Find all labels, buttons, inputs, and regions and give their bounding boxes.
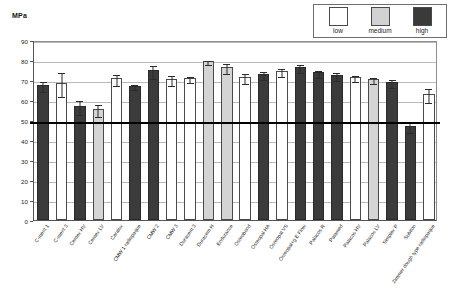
error-bar	[190, 77, 191, 84]
error-bar-cap-bottom	[40, 92, 47, 93]
y-axis-tick-mark	[30, 201, 33, 202]
error-bar-cap-bottom	[187, 83, 194, 84]
bar	[56, 83, 67, 220]
error-bar	[226, 64, 227, 74]
error-bar	[116, 75, 117, 85]
bar	[423, 94, 434, 220]
bar	[405, 126, 416, 220]
error-bar	[98, 105, 99, 117]
error-bar-cap-bottom	[425, 103, 432, 104]
bar-group	[239, 42, 250, 220]
error-bar-cap-top	[95, 105, 102, 106]
x-axis-tick-label: Duracem 3	[178, 223, 197, 247]
y-axis-tick-mark	[30, 221, 33, 222]
bar-group	[203, 42, 214, 220]
error-bar-cap-top	[131, 85, 138, 86]
legend-label-high: high	[402, 27, 442, 35]
error-bar	[245, 74, 246, 83]
y-axis-tick-label: 10	[0, 198, 28, 205]
error-bar-cap-top	[187, 77, 194, 78]
error-bar-cap-bottom	[389, 88, 396, 89]
error-bar-cap-bottom	[297, 73, 304, 74]
bar	[129, 86, 140, 220]
error-bar-cap-top	[297, 65, 304, 66]
error-bar-cap-bottom	[205, 65, 212, 66]
bar-group	[221, 42, 232, 220]
y-axis-tick-label: 20	[0, 178, 28, 185]
bar	[313, 72, 324, 220]
x-axis-tick-label: CMW 2	[146, 223, 161, 240]
y-axis-tick-mark	[30, 181, 33, 182]
x-axis-tick-label: Palamed	[327, 223, 343, 243]
bar	[276, 71, 287, 220]
bar	[221, 67, 232, 220]
error-bar	[392, 80, 393, 87]
bar-group	[111, 42, 122, 220]
bar	[184, 78, 195, 220]
error-bar-cap-bottom	[333, 81, 340, 82]
error-bar-cap-bottom	[131, 90, 138, 91]
bar-group	[93, 42, 104, 220]
error-bar	[428, 89, 429, 103]
error-bar-cap-bottom	[352, 82, 359, 83]
y-axis-tick-label: 70	[0, 78, 28, 85]
bar-group	[37, 42, 48, 220]
legend-item-low: low	[318, 7, 358, 35]
bar-group	[405, 42, 416, 220]
error-bar-cap-bottom	[58, 97, 65, 98]
bar-group	[423, 42, 434, 220]
error-bar-cap-top	[113, 75, 120, 76]
error-bar-cap-bottom	[168, 86, 175, 87]
chart-legend: low medium high	[313, 4, 447, 38]
error-bar	[171, 76, 172, 86]
y-axis-tick-mark	[30, 161, 33, 162]
error-bar-cap-top	[370, 78, 377, 79]
x-axis-tick-label: C-ment 1	[33, 223, 50, 244]
bar	[368, 79, 379, 220]
x-axis-tick-label: Zimmer dough type radiopaque	[390, 223, 436, 284]
error-bar-cap-top	[425, 89, 432, 90]
bar	[111, 78, 122, 220]
error-bar-cap-top	[352, 76, 359, 77]
bar-group	[148, 42, 159, 220]
x-axis-tick-label: C-ment 3	[52, 223, 69, 244]
y-axis-tick-mark	[30, 101, 33, 102]
error-bar-cap-top	[242, 74, 249, 75]
bar	[386, 82, 397, 220]
y-axis-tick-mark	[30, 61, 33, 62]
x-axis-tick-label: Simplex P	[381, 223, 399, 245]
bar-group	[295, 42, 306, 220]
x-axis-tick-label: CMW 3	[164, 223, 179, 240]
y-axis-tick-label: 80	[0, 58, 28, 65]
x-axis-tick-label: Palacos LV	[361, 223, 380, 247]
x-axis-tick-label: Subiton	[403, 223, 418, 241]
error-bar-cap-bottom	[95, 117, 102, 118]
x-axis-tick-label: Osteobond	[233, 223, 252, 247]
bar	[148, 70, 159, 220]
y-axis-tick-mark	[30, 41, 33, 42]
low-swatch-icon	[329, 7, 348, 26]
error-bar-cap-top	[333, 73, 340, 74]
bar	[258, 74, 269, 220]
error-bar-cap-bottom	[76, 115, 83, 116]
bar	[93, 109, 104, 220]
y-axis-tick-mark	[30, 81, 33, 82]
error-bar	[336, 73, 337, 80]
bar-group	[166, 42, 177, 220]
x-axis-tick-label: Palacos R	[307, 223, 325, 245]
error-bar-cap-bottom	[407, 133, 414, 134]
x-axis-tick-label: Ceralux	[109, 223, 124, 241]
error-bar	[79, 101, 80, 114]
error-bar	[300, 65, 301, 73]
error-bar-cap-bottom	[150, 79, 157, 80]
y-axis-tick-label: 30	[0, 158, 28, 165]
error-bar-cap-top	[150, 66, 157, 67]
error-bar	[263, 72, 264, 80]
bar	[37, 85, 48, 220]
x-axis-tick-label: Endurance	[215, 223, 234, 247]
bar-group	[331, 42, 342, 220]
error-bar-cap-top	[168, 76, 175, 77]
error-bar-cap-top	[260, 72, 267, 73]
y-axis-tick-mark	[30, 141, 33, 142]
error-bar	[61, 73, 62, 96]
